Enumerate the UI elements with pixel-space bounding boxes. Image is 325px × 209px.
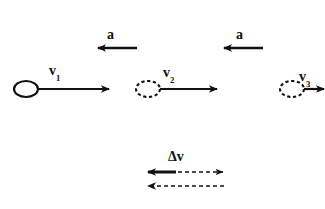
label-delta-v: Δv [168, 150, 184, 164]
label-acceleration-left: a [107, 28, 114, 42]
vector-diagram-svg [0, 0, 325, 209]
label-v3-symbol: v [299, 69, 306, 84]
label-v3: v3 [299, 70, 310, 86]
label-v2: v2 [163, 66, 174, 82]
label-v1-subscript: 1 [56, 73, 60, 83]
figure-canvas: v1 v2 v3 a a Δv [0, 0, 325, 209]
label-v1-symbol: v [49, 63, 56, 78]
ball-position-1 [14, 81, 38, 97]
label-v3-subscript: 3 [306, 79, 310, 89]
ball-position-2 [136, 81, 160, 97]
label-v2-subscript: 2 [170, 75, 174, 85]
label-v1: v1 [49, 64, 60, 80]
label-v2-symbol: v [163, 65, 170, 80]
label-acceleration-right: a [236, 28, 243, 42]
